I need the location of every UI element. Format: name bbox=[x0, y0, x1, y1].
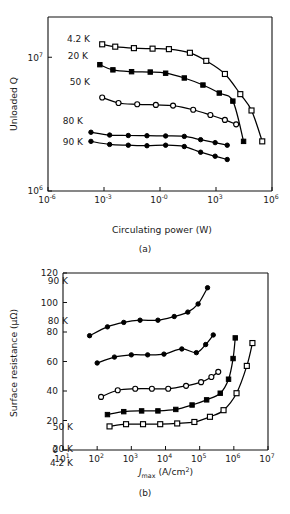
data-point bbox=[203, 342, 207, 346]
data-point bbox=[156, 409, 160, 413]
data-point bbox=[129, 353, 133, 357]
data-point bbox=[124, 422, 129, 427]
data-point bbox=[138, 318, 142, 322]
data-point bbox=[234, 391, 239, 396]
data-point bbox=[221, 408, 226, 413]
data-point bbox=[231, 356, 235, 360]
data-point bbox=[217, 91, 221, 95]
data-point bbox=[145, 353, 149, 357]
data-point bbox=[100, 95, 105, 100]
y-tick-label: 80 bbox=[47, 327, 59, 337]
data-point bbox=[166, 47, 171, 52]
y-tick-label: 100 bbox=[41, 298, 58, 308]
panel-a-series-label-50K: 50 K bbox=[70, 77, 91, 87]
data-point bbox=[213, 154, 217, 158]
data-point bbox=[126, 143, 130, 147]
x-tick-label: 10-0 bbox=[150, 193, 168, 205]
data-point bbox=[122, 409, 126, 413]
data-point bbox=[192, 419, 197, 424]
data-point bbox=[207, 414, 212, 419]
data-point bbox=[122, 320, 126, 324]
panel-a-series-label-4.2K: 4.2 K bbox=[67, 34, 91, 44]
panel-b-x-axis-title: Jmax (A/cm2) bbox=[137, 466, 193, 480]
data-point bbox=[241, 139, 245, 143]
data-point bbox=[115, 388, 120, 393]
data-point bbox=[107, 142, 111, 146]
y-tick-label: 107 bbox=[28, 51, 43, 63]
data-point bbox=[112, 355, 116, 359]
data-point bbox=[231, 99, 235, 103]
panel-b-markers bbox=[87, 286, 255, 429]
panel-a-unloaded-q: 10-610-310-0103106 107106 Circulating po… bbox=[0, 0, 290, 258]
scientific-figure: 10-610-310-0103106 107106 Circulating po… bbox=[0, 0, 290, 514]
data-point bbox=[116, 101, 121, 106]
data-point bbox=[205, 286, 209, 290]
data-point bbox=[141, 422, 146, 427]
data-point bbox=[99, 394, 104, 399]
data-point bbox=[131, 46, 136, 51]
x-tick-label: 106 bbox=[225, 452, 240, 464]
data-point bbox=[198, 150, 202, 154]
data-point bbox=[145, 134, 149, 138]
data-point bbox=[156, 318, 160, 322]
data-point bbox=[186, 310, 190, 314]
panel-a-y-tick-labels: 107106 bbox=[28, 51, 43, 197]
panel-a-series-label-80K: 80 K bbox=[63, 116, 84, 126]
data-point bbox=[126, 133, 130, 137]
data-point bbox=[105, 325, 109, 329]
data-point bbox=[107, 133, 111, 137]
data-point bbox=[191, 107, 196, 112]
data-point bbox=[204, 58, 209, 63]
data-point bbox=[190, 403, 194, 407]
data-point bbox=[180, 347, 184, 351]
data-point bbox=[89, 139, 93, 143]
data-point bbox=[225, 143, 229, 147]
data-point bbox=[233, 336, 237, 340]
panel-b-series-label-4.2K: 4.2 K bbox=[50, 458, 74, 468]
panel-a-caption: (a) bbox=[139, 244, 152, 254]
data-point bbox=[174, 407, 178, 411]
x-tick-label: 107 bbox=[259, 452, 274, 464]
data-point bbox=[107, 424, 112, 429]
data-point bbox=[182, 144, 186, 148]
data-point bbox=[249, 108, 254, 113]
data-point bbox=[162, 352, 166, 356]
data-point bbox=[163, 134, 167, 138]
x-tick-label: 103 bbox=[207, 193, 222, 205]
data-point bbox=[194, 350, 198, 354]
panel-b-series-label-90K: 90 K bbox=[48, 276, 69, 286]
series-curve-50K bbox=[102, 98, 236, 125]
data-point bbox=[113, 44, 118, 49]
data-point bbox=[133, 386, 138, 391]
x-tick-label: 103 bbox=[123, 452, 138, 464]
x-tick-label: 105 bbox=[191, 452, 206, 464]
x-tick-label: 10-3 bbox=[94, 193, 112, 205]
data-point bbox=[153, 102, 158, 107]
data-point bbox=[98, 62, 102, 66]
panel-a-x-axis-title: Circulating power (W) bbox=[112, 224, 212, 235]
y-tick-label: 40 bbox=[47, 386, 59, 396]
data-point bbox=[238, 92, 243, 97]
data-point bbox=[163, 71, 167, 75]
data-point bbox=[222, 117, 227, 122]
data-point bbox=[172, 314, 176, 318]
data-point bbox=[201, 83, 205, 87]
y-tick-label: 60 bbox=[47, 357, 59, 367]
x-tick-label: 10-6 bbox=[38, 193, 56, 205]
data-point bbox=[204, 398, 208, 402]
panel-a-plot: 10-610-310-0103106 107106 Circulating po… bbox=[0, 0, 290, 258]
panel-a-series-label-90K: 90 K bbox=[63, 137, 84, 147]
data-point bbox=[222, 71, 227, 76]
data-point bbox=[171, 103, 176, 108]
panel-a-x-tick-labels: 10-610-310-0103106 bbox=[38, 193, 279, 205]
data-point bbox=[150, 46, 155, 51]
data-point bbox=[198, 137, 202, 141]
panel-b-series-label-20K: 20 K bbox=[53, 444, 74, 454]
x-tick-label: 102 bbox=[88, 452, 103, 464]
data-point bbox=[158, 422, 163, 427]
data-point bbox=[213, 140, 217, 144]
data-point bbox=[163, 143, 167, 147]
data-point bbox=[129, 69, 133, 73]
panel-b-series-label-80K: 80 K bbox=[48, 316, 69, 326]
x-tick-label: 106 bbox=[263, 193, 278, 205]
